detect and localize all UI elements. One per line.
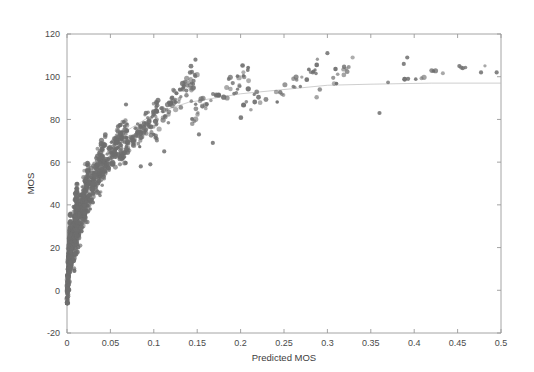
scatter-point-outlier	[377, 111, 381, 115]
plot-canvas: 00.050.10.150.20.250.30.350.40.450.5-200…	[0, 0, 534, 372]
y-tick-label: 0	[55, 286, 60, 296]
x-tick-label: 0.05	[102, 338, 120, 348]
scatter-point-outlier	[211, 141, 215, 145]
scatter-point-outlier	[461, 66, 465, 70]
x-tick-label: 0.5	[495, 338, 508, 348]
axis-ticks: 00.050.10.150.20.250.30.350.40.450.5-200…	[45, 29, 507, 348]
y-tick-label: 80	[50, 115, 60, 125]
y-tick-label: 60	[50, 158, 60, 168]
x-tick-label: 0.1	[148, 338, 161, 348]
axes-frame	[67, 34, 501, 333]
scatter-point-outlier	[405, 55, 409, 59]
x-tick-label: 0.3	[321, 338, 334, 348]
scatter-point-outlier	[197, 132, 201, 136]
x-tick-label: 0.35	[362, 338, 380, 348]
x-tick-label: 0.25	[275, 338, 293, 348]
y-tick-label: -20	[47, 328, 60, 338]
scatter-plot-figure: 00.050.10.150.20.250.30.350.40.450.5-200…	[0, 0, 534, 372]
y-tick-label: 20	[50, 243, 60, 253]
y-axis-title: MOS	[25, 173, 36, 195]
scatter-point-outlier	[193, 58, 197, 62]
y-tick-label: 40	[50, 200, 60, 210]
x-tick-label: 0.15	[188, 338, 206, 348]
scatter-point-outlier	[124, 102, 128, 106]
x-tick-label: 0	[64, 338, 69, 348]
x-axis-title: Predicted MOS	[252, 352, 316, 363]
scatter-point-outlier	[495, 70, 499, 74]
x-tick-label: 0.2	[234, 338, 247, 348]
scatter-point-outlier	[457, 64, 461, 68]
fit-curve	[67, 83, 501, 286]
scatter-points	[64, 51, 498, 306]
scatter-point-outlier	[406, 77, 410, 81]
scatter-point-outlier	[479, 70, 483, 74]
y-tick-label: 100	[45, 72, 60, 82]
x-tick-label: 0.4	[408, 338, 421, 348]
scatter-point-outlier	[148, 162, 152, 166]
scatter-point-outlier	[402, 62, 406, 66]
scatter-point-outlier	[325, 51, 329, 55]
scatter-point-outlier	[162, 149, 166, 153]
x-tick-label: 0.45	[449, 338, 467, 348]
y-tick-label: 120	[45, 29, 60, 39]
scatter-point-outlier	[139, 164, 143, 168]
